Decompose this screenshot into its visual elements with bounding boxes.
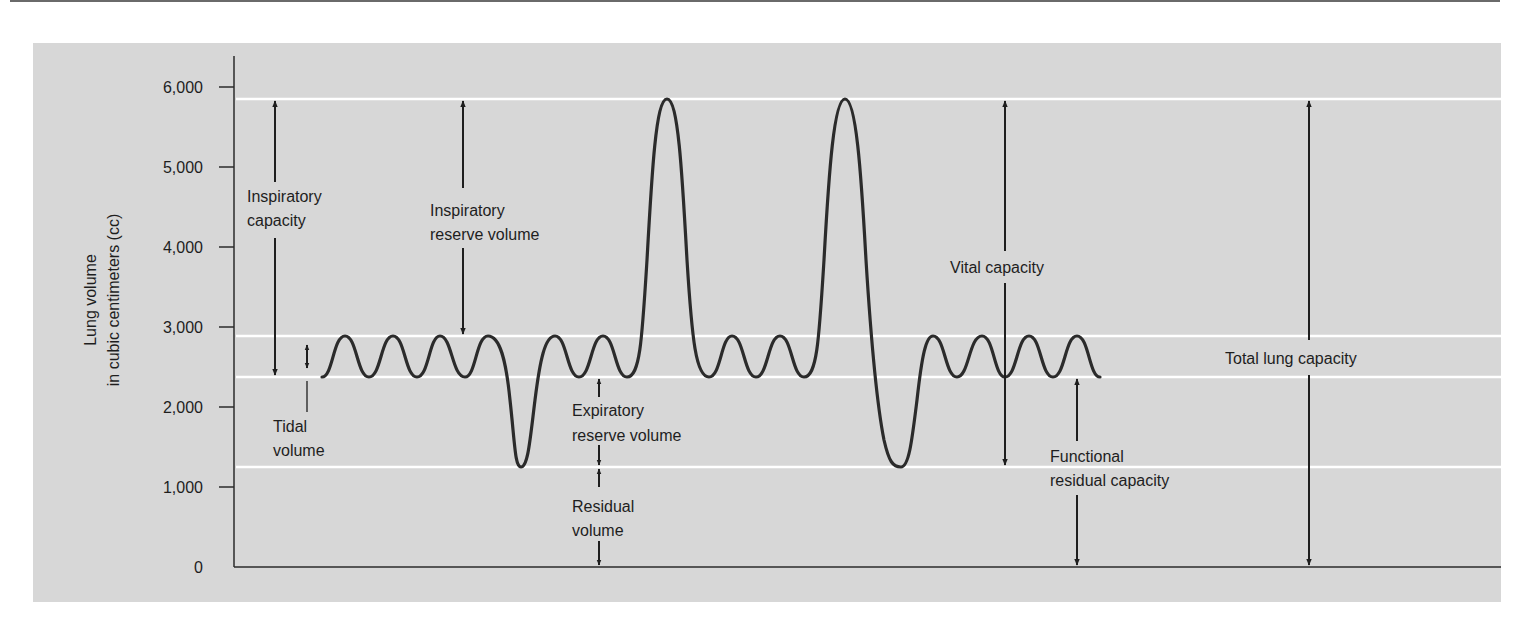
label-vital-capacity: Vital capacity — [950, 259, 1044, 276]
y-tick-6000: 6,000 — [163, 79, 203, 96]
y-tick-4000: 4,000 — [163, 239, 203, 256]
label-irv-1: Inspiratory — [430, 202, 505, 219]
label-irv-2: reserve volume — [430, 226, 539, 243]
y-tick-3000: 3,000 — [163, 319, 203, 336]
y-tick-1000: 1,000 — [163, 479, 203, 496]
label-inspiratory-capacity-1: Inspiratory — [247, 188, 322, 205]
label-frc-1: Functional — [1050, 448, 1124, 465]
y-tick-2000: 2,000 — [163, 399, 203, 416]
y-tick-5000: 5,000 — [163, 159, 203, 176]
label-tidal-volume-2: volume — [273, 442, 325, 459]
label-residual-volume-1: Residual — [572, 498, 634, 515]
label-tidal-volume-1: Tidal — [273, 418, 307, 435]
label-erv-2: reserve volume — [572, 427, 681, 444]
y-axis-title-line2: in cubic centimeters (cc) — [105, 214, 122, 387]
spirogram-trace — [322, 99, 1100, 467]
label-erv-1: Expiratory — [572, 402, 644, 419]
annotation-labels: Inspiratory capacity Inspiratory reserve… — [247, 188, 1357, 539]
label-inspiratory-capacity-2: capacity — [247, 212, 306, 229]
y-tick-0: 0 — [194, 559, 203, 576]
y-axis-title: Lung volume in cubic centimeters (cc) — [82, 214, 122, 387]
spirogram-chart: 6,000 5,000 4,000 3,000 2,000 1,000 0 Lu… — [0, 0, 1531, 622]
y-axis-title-line1: Lung volume — [82, 254, 99, 346]
annotation-arrows — [275, 101, 1309, 565]
label-residual-volume-2: volume — [572, 522, 624, 539]
label-frc-2: residual capacity — [1050, 472, 1169, 489]
label-total-lung-capacity: Total lung capacity — [1225, 350, 1357, 367]
y-tick-labels: 6,000 5,000 4,000 3,000 2,000 1,000 0 — [163, 79, 203, 576]
